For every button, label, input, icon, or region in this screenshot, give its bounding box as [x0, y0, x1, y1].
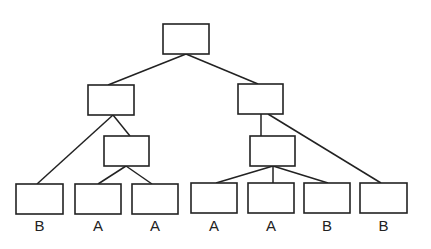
tree-nodes: [16, 24, 407, 214]
tree-node-leaf3: [132, 184, 178, 214]
edge-L-LM: [113, 115, 130, 136]
node-box: [304, 183, 350, 213]
node-box: [132, 184, 178, 214]
tree-node-LM: [104, 136, 149, 166]
node-box: [88, 85, 134, 115]
edge-L-leaf1: [37, 115, 113, 184]
tree-diagram: BAAAABB: [0, 0, 431, 249]
node-box: [250, 136, 295, 166]
tree-edges: [37, 54, 381, 184]
node-box: [248, 183, 294, 213]
tree-node-leaf1: [16, 184, 63, 214]
leaf-labels: BAAAABB: [34, 217, 388, 234]
node-box: [104, 136, 149, 166]
leaf-label-leaf2: A: [93, 217, 103, 234]
tree-node-L: [88, 85, 134, 115]
node-box: [360, 183, 407, 213]
tree-node-root: [163, 24, 209, 54]
edge-root-R: [186, 54, 258, 84]
leaf-label-leaf3: A: [150, 217, 160, 234]
edge-LM-leaf2: [98, 166, 126, 184]
node-box: [238, 84, 283, 114]
node-box: [16, 184, 63, 214]
node-box: [75, 184, 121, 214]
leaf-label-leaf1: B: [34, 217, 44, 234]
leaf-label-leaf5: A: [266, 217, 276, 234]
tree-node-R: [238, 84, 283, 114]
leaf-label-leaf7: B: [378, 217, 388, 234]
edge-root-L: [108, 54, 186, 85]
node-box: [163, 24, 209, 54]
tree-node-leaf5: [248, 183, 294, 213]
edge-RM-leaf4: [216, 166, 273, 183]
tree-node-leaf7: [360, 183, 407, 213]
edge-LM-leaf3: [126, 166, 152, 184]
tree-node-leaf4: [191, 183, 237, 213]
leaf-label-leaf6: B: [322, 217, 332, 234]
node-box: [191, 183, 237, 213]
edge-RM-leaf6: [273, 166, 328, 183]
tree-node-RM: [250, 136, 295, 166]
tree-node-leaf2: [75, 184, 121, 214]
leaf-label-leaf4: A: [209, 217, 219, 234]
tree-node-leaf6: [304, 183, 350, 213]
